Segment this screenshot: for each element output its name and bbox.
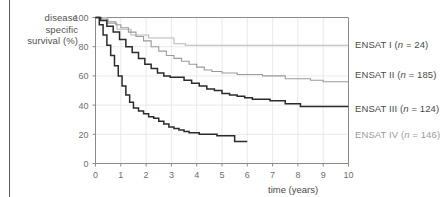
legend-item-ensat-3: ENSAT III (n = 124) <box>355 103 439 114</box>
figure-kaplan-meier-survival: disease specific survival (%) 0204060801… <box>0 0 447 197</box>
x-tick-labels: 012345678910 <box>93 170 354 180</box>
x-tick-label: 5 <box>219 170 224 180</box>
legend-item-ensat-1: ENSAT I (n = 24) <box>355 39 428 50</box>
legend-label-text-2: ENSAT II (n = 185) <box>355 69 436 80</box>
y-tick-label: 40 <box>78 101 88 111</box>
x-tick-label: 0 <box>93 170 98 180</box>
x-tick-label: 6 <box>245 170 250 180</box>
legend-item-ensat-4: ENSAT IV (n = 146) <box>355 129 440 140</box>
x-tick-label: 3 <box>169 170 174 180</box>
x-tick-label: 1 <box>118 170 123 180</box>
x-tick-label: 9 <box>321 170 326 180</box>
axes-frame <box>93 18 349 167</box>
y-tick-labels: 020406080100 <box>73 13 88 169</box>
x-tick-label: 8 <box>295 170 300 180</box>
legend-label-text-4: ENSAT IV (n = 146) <box>355 129 440 140</box>
y-tick-label: 60 <box>78 71 88 81</box>
x-axis-title: time (years) <box>268 184 318 195</box>
plot-area: 020406080100 012345678910 <box>0 0 447 197</box>
legend-label-text-1: ENSAT I (n = 24) <box>355 39 428 50</box>
y-tick-label: 0 <box>83 159 88 169</box>
y-tick-label: 80 <box>78 42 88 52</box>
legend-label-text-3: ENSAT III (n = 124) <box>355 103 439 114</box>
legend-item-ensat-2: ENSAT II (n = 185) <box>355 69 436 80</box>
y-tick-label: 100 <box>73 13 88 23</box>
x-tick-label: 4 <box>194 170 199 180</box>
y-tick-label: 20 <box>78 130 88 140</box>
x-tick-label: 2 <box>144 170 149 180</box>
x-tick-label: 10 <box>343 170 353 180</box>
x-tick-label: 7 <box>270 170 275 180</box>
